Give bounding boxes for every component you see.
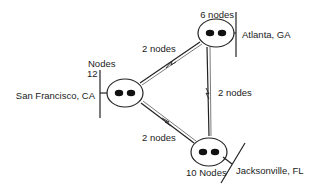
atlanta-node-count-label: 6 nodes: [180, 10, 234, 20]
jacksonville-node-count-label: 10 Nodes: [186, 168, 227, 178]
jacksonville-location-label: Jacksonville, FL: [236, 166, 304, 176]
router-port-icon: [218, 30, 226, 36]
router-port-icon: [211, 149, 219, 155]
wan-link-icon: [206, 47, 211, 136]
router-port-icon: [115, 90, 123, 96]
atlanta-location-label: Atlanta, GA: [242, 30, 291, 40]
link-label-sf-jacksonville: 2 nodes: [142, 133, 176, 143]
router-port-icon: [127, 90, 135, 96]
link-label-atlanta-jacksonville: 2 nodes: [218, 88, 252, 98]
sf-location-label: San Francisco, CA: [0, 91, 95, 101]
network-diagram: Nodes 12 San Francisco, CA 6 nodes Atlan…: [0, 0, 314, 196]
link-label-sf-atlanta: 2 nodes: [142, 44, 176, 54]
router-port-icon: [206, 30, 214, 36]
sf-node-count-number: 12: [87, 69, 98, 79]
router-port-icon: [199, 149, 207, 155]
